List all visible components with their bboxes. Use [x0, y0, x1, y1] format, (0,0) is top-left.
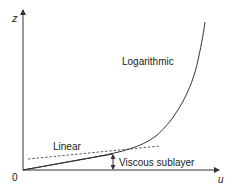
u-axis-label: u [218, 174, 224, 185]
logarithmic-label: Logarithmic [122, 56, 174, 67]
origin-label: 0 [12, 172, 18, 183]
viscous-sublayer-label: Viscous sublayer [119, 157, 195, 168]
z-axis-label: z [11, 12, 18, 24]
logarithmic-curve [23, 22, 205, 170]
diagram-canvas: z 0 u Logarithmic Linear Viscous sublaye… [0, 0, 239, 185]
linear-label: Linear [53, 141, 81, 152]
